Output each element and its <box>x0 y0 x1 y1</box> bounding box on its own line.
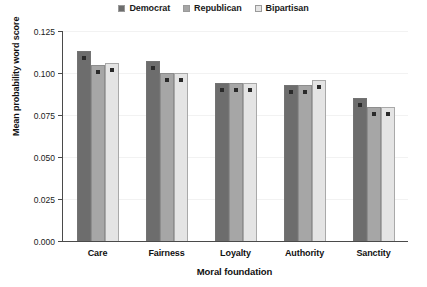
y-tick-label: 0.100 <box>34 69 55 79</box>
x-axis-ticks: CareFairnessLoyaltyAuthoritySanctity <box>63 241 408 258</box>
y-tick-label: 0.000 <box>34 237 55 247</box>
y-tick-label: 0.025 <box>34 195 55 205</box>
bar <box>298 85 312 241</box>
bar <box>77 51 91 241</box>
y-tick-label: 0.075 <box>34 111 55 121</box>
x-tick-label: Fairness <box>132 241 201 258</box>
legend-swatch-democrat <box>118 5 125 12</box>
y-tick-label: 0.050 <box>34 153 55 163</box>
error-bar-marker <box>289 90 293 94</box>
bar <box>174 73 188 241</box>
bar-group <box>63 31 132 241</box>
bar <box>215 83 229 241</box>
bar-groups <box>63 31 408 241</box>
chart-legend: Democrat Republican Bipartisan <box>0 3 427 13</box>
x-tick-label: Loyalty <box>201 241 270 258</box>
legend-swatch-republican <box>183 5 190 12</box>
error-bar-marker <box>96 70 100 74</box>
error-bar-marker <box>220 88 224 92</box>
bar-group <box>201 31 270 241</box>
bar-chart-figure: Democrat Republican Bipartisan Mean prob… <box>0 0 427 287</box>
error-bar-marker <box>234 88 238 92</box>
bar <box>367 107 381 241</box>
legend-entry-democrat: Democrat <box>118 3 170 13</box>
error-bar-marker <box>317 85 321 89</box>
bar <box>91 65 105 241</box>
bar-group <box>270 31 339 241</box>
legend-entry-republican: Republican <box>183 3 242 13</box>
legend-label-bipartisan: Bipartisan <box>266 3 309 13</box>
bar <box>312 80 326 241</box>
y-axis-title: Mean probability word score <box>11 17 21 136</box>
plot-area: 0.0000.0250.0500.0750.1000.125 CareFairn… <box>62 31 408 242</box>
legend-entry-bipartisan: Bipartisan <box>255 3 309 13</box>
error-bar-marker <box>358 103 362 107</box>
bar <box>146 61 160 241</box>
x-axis-title: Moral foundation <box>62 266 407 277</box>
error-bar-marker <box>151 66 155 70</box>
bar <box>105 63 119 241</box>
bar <box>229 83 243 241</box>
error-bar-marker <box>82 56 86 60</box>
legend-label-republican: Republican <box>194 3 242 13</box>
bar <box>381 107 395 241</box>
y-tick-label: 0.125 <box>34 27 55 37</box>
x-tick-label: Sanctity <box>339 241 408 258</box>
error-bar-marker <box>110 68 114 72</box>
error-bar-marker <box>303 90 307 94</box>
bar <box>284 85 298 241</box>
error-bar-marker <box>248 88 252 92</box>
bar <box>243 83 257 241</box>
x-tick-label: Care <box>63 241 132 258</box>
error-bar-marker <box>372 112 376 116</box>
legend-swatch-bipartisan <box>255 5 262 12</box>
error-bar-marker <box>179 78 183 82</box>
x-tick-label: Authority <box>270 241 339 258</box>
bar <box>353 98 367 241</box>
bar-group <box>339 31 408 241</box>
error-bar-marker <box>386 112 390 116</box>
legend-label-democrat: Democrat <box>129 3 170 13</box>
bar-group <box>132 31 201 241</box>
bar <box>160 73 174 241</box>
error-bar-marker <box>165 78 169 82</box>
